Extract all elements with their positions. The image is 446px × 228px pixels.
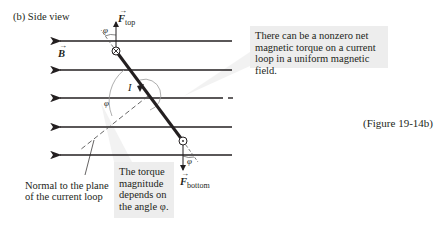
force-bottom-subscript: bottom: [187, 181, 210, 190]
top-callout-line3: loop in a uniform magnetic field.: [255, 53, 383, 76]
field-symbol: B: [58, 48, 65, 59]
bottom-callout-line4: the angle φ.: [119, 201, 169, 213]
normal-leader-line: [85, 140, 94, 175]
normal-label-line2: of the current loop: [25, 191, 109, 202]
top-callout-line2: magnetic torque on a current: [255, 42, 383, 54]
phi-label-top: φ: [103, 25, 108, 36]
force-bottom-symbol: F: [180, 176, 187, 187]
magnetic-field-lines: [60, 41, 233, 155]
normal-label: Normal to the plane of the current loop: [25, 180, 109, 202]
phi-label-main: φ: [104, 98, 109, 109]
panel-label: (b) Side view: [13, 11, 70, 22]
current-into-page-icon: [112, 47, 120, 55]
figure-caption: (Figure 19-14b): [363, 118, 433, 129]
force-top-symbol: F: [118, 13, 125, 24]
field-label: B: [58, 48, 65, 59]
top-callout-line1: There can be a nonzero net: [255, 30, 383, 42]
bottom-callout-line3: depends on: [119, 189, 169, 201]
bottom-callout: The torque magnitude depends on the angl…: [114, 162, 174, 218]
phi-arc-main: [109, 70, 124, 116]
bottom-callout-line2: magnitude: [119, 178, 169, 190]
top-callout-pointer: [184, 52, 250, 96]
force-bottom-label: Fbottom: [180, 176, 210, 191]
force-top-label: Ftop: [118, 13, 135, 28]
bottom-callout-line1: The torque: [119, 166, 169, 178]
top-callout: There can be a nonzero net magnetic torq…: [250, 26, 388, 68]
current-out-of-page-icon: [179, 137, 187, 145]
current-label: I: [128, 82, 132, 93]
force-top-subscript: top: [125, 18, 135, 27]
phi-label-bottom: φ: [187, 156, 192, 167]
normal-label-line1: Normal to the plane: [25, 180, 109, 191]
